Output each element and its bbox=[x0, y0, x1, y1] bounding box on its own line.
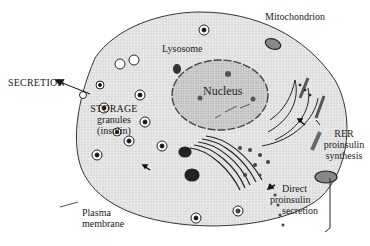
rer-line1: RER bbox=[318, 128, 370, 139]
storage-line3: (insulin) bbox=[88, 125, 140, 136]
nucleus-label: Nucleus bbox=[203, 86, 242, 97]
plasma-membrane-pointer bbox=[60, 202, 78, 207]
storage-line1: STORAGE bbox=[88, 103, 140, 114]
direct-line2: proinsulin bbox=[270, 194, 318, 205]
lysosome-label: Lysosome bbox=[162, 43, 203, 54]
direct-line3: secretion bbox=[270, 205, 318, 216]
plasma-membrane-label: Plasma membrane bbox=[82, 207, 124, 229]
mitochondrion-label: Mitochondrion bbox=[265, 11, 325, 22]
plasma-line2: membrane bbox=[82, 218, 124, 229]
rer-line3: synthesis bbox=[318, 150, 370, 161]
plasma-line1: Plasma bbox=[82, 207, 124, 218]
storage-line2: granules bbox=[88, 114, 140, 125]
storage-granules-label: STORAGE granules (insulin) bbox=[88, 103, 140, 136]
lysosome bbox=[173, 64, 181, 74]
rer-label: RER proinsulin synthesis bbox=[318, 128, 370, 161]
direct-line1: Direct bbox=[270, 183, 318, 194]
secretion-label: SECRETION bbox=[8, 77, 65, 88]
direct-secretion-label: Direct proinsulin secretion bbox=[270, 183, 318, 216]
rer-line2: proinsulin bbox=[318, 139, 370, 150]
mitochondrion bbox=[315, 171, 337, 183]
